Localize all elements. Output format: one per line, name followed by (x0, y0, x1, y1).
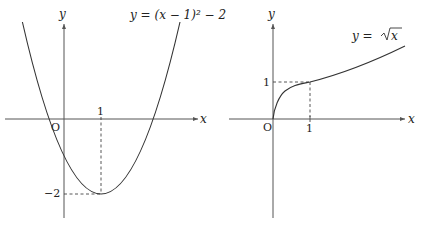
right-graph: x y O 1 1 y = x (229, 7, 415, 218)
left-graph: x y O 1 −2 y = (x − 1)² − 2 (5, 7, 226, 218)
right-equation-label: y = (351, 29, 373, 43)
x-axis-label: x (200, 112, 207, 126)
left-equation-label: y = (x − 1)² − 2 (129, 8, 226, 22)
x-tick-label-1: 1 (97, 105, 104, 118)
origin-label: O (263, 121, 272, 134)
x-axis-label: x (408, 112, 415, 126)
y-axis-label: y (58, 7, 66, 21)
sqrt-curve (273, 46, 405, 119)
x-tick-label-1: 1 (306, 122, 313, 135)
y-axis-label: y (267, 7, 275, 21)
y-tick-label-neg2: −2 (44, 187, 60, 200)
figure: x y O 1 −2 y = (x − 1)² − 2 x y O 1 1 y … (0, 0, 422, 226)
y-tick-label-1: 1 (263, 76, 270, 89)
radicand-label: x (391, 29, 398, 43)
